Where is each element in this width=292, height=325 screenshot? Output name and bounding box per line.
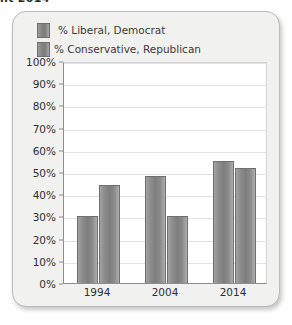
bar[interactable] <box>99 185 120 283</box>
y-axis-tick-label: 40% <box>33 189 56 201</box>
cropped-heading-fragment: nt 2014 <box>0 0 50 2</box>
x-axis-tick-label: 2014 <box>220 286 247 298</box>
y-axis-tick-label: 70% <box>33 123 56 135</box>
bars-layer <box>64 63 266 283</box>
bar[interactable] <box>167 216 188 283</box>
legend-item-liberal-democrat: % Liberal, Democrat <box>37 21 263 39</box>
y-axis: 0%10%20%30%40%50%60%70%80%90%100% <box>23 62 59 284</box>
legend-swatch-icon <box>37 23 50 38</box>
y-axis-tick-label: 60% <box>33 145 56 157</box>
bar-group <box>132 63 200 283</box>
bar[interactable] <box>235 168 256 283</box>
y-axis-tick-label: 100% <box>26 56 56 68</box>
y-axis-tick-label: 30% <box>33 211 56 223</box>
plot-area <box>63 62 267 284</box>
legend-swatch-icon <box>37 42 50 57</box>
chart-legend: % Liberal, Democrat % Conservative, Repu… <box>37 21 263 59</box>
x-axis: 199420042014 <box>63 286 267 304</box>
y-axis-tick-label: 10% <box>33 256 56 268</box>
bar[interactable] <box>213 161 234 283</box>
y-axis-tick-label: 80% <box>33 100 56 112</box>
x-axis-tick-label: 1994 <box>84 286 111 298</box>
bar[interactable] <box>145 176 166 283</box>
bar-group <box>200 63 268 283</box>
legend-item-conservative-republican: % Conservative, Republican <box>37 40 263 58</box>
legend-item-label: % Liberal, Democrat <box>58 24 165 36</box>
y-axis-tick-label: 90% <box>33 78 56 90</box>
y-axis-tick-label: 20% <box>33 234 56 246</box>
y-axis-tick-label: 50% <box>33 167 56 179</box>
x-axis-tick-label: 2004 <box>152 286 179 298</box>
y-axis-tick-label: 0% <box>39 278 56 290</box>
chart-panel: % Liberal, Democrat % Conservative, Repu… <box>12 11 280 307</box>
bar[interactable] <box>77 216 98 283</box>
legend-item-label: % Conservative, Republican <box>54 43 201 55</box>
bar-group <box>64 63 132 283</box>
plot-wrapper: 0%10%20%30%40%50%60%70%80%90%100% 199420… <box>23 62 271 306</box>
